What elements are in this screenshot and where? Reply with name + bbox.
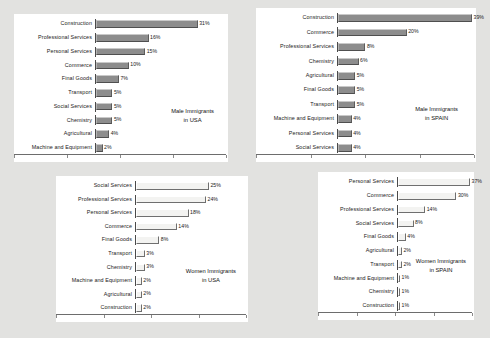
bar-track: 24% — [135, 195, 244, 205]
bar[interactable]: 14% — [398, 206, 425, 214]
bar[interactable]: 25% — [136, 182, 209, 190]
category-label: Personal Services — [14, 49, 95, 54]
bar[interactable]: 5% — [96, 117, 112, 125]
bar-row: Commerce20% — [256, 27, 472, 37]
bar[interactable]: 15% — [96, 48, 145, 56]
bar[interactable]: 31% — [96, 20, 198, 28]
chart-caption-line2: in USA — [186, 276, 236, 284]
bar[interactable]: 18% — [136, 209, 189, 217]
bar[interactable]: 2% — [96, 144, 103, 152]
bar-row: Agricultural2% — [318, 246, 470, 256]
bar-row: Construction2% — [56, 303, 244, 313]
chart-panel-male-usa: Construction31%Professional Services16%P… — [14, 14, 228, 162]
bar[interactable]: 2% — [136, 277, 142, 285]
bar-chart-male-spain: Construction39%Commerce20%Professional S… — [256, 8, 476, 162]
x-axis-tick — [120, 155, 121, 158]
bar-track: 7% — [95, 74, 224, 84]
category-label: Transport — [256, 102, 337, 107]
bar[interactable]: 5% — [338, 101, 355, 109]
bar-value-label: 4% — [353, 116, 361, 121]
bar-rows: Construction39%Commerce20%Professional S… — [256, 13, 472, 153]
category-label: Social Services — [318, 221, 397, 226]
bar[interactable]: 4% — [338, 115, 352, 123]
x-axis — [318, 312, 472, 313]
x-axis-tick — [246, 315, 247, 318]
bar[interactable]: 1% — [398, 288, 400, 296]
bar-value-label: 1% — [402, 303, 410, 308]
bar[interactable]: 2% — [136, 291, 142, 299]
bar-value-label: 2% — [403, 248, 411, 253]
category-label: Machine and Equipment — [256, 116, 337, 121]
bar[interactable]: 4% — [398, 233, 406, 241]
bar-value-label: 39% — [474, 15, 484, 20]
bar-track: 18% — [135, 208, 244, 218]
bar[interactable]: 2% — [136, 304, 142, 312]
x-axis-tick — [173, 155, 174, 158]
bar-row: Commerce14% — [56, 222, 244, 232]
chart-caption-line2: in SPAIN — [415, 114, 458, 122]
bar-track: 5% — [337, 85, 472, 95]
bar-row: Final Goods8% — [56, 235, 244, 245]
x-axis-tick — [226, 155, 227, 158]
bar-rows: Personal Services37%Commerce30%Professio… — [318, 177, 470, 311]
category-label: Social Services — [256, 145, 337, 150]
bar-track: 8% — [397, 218, 470, 228]
bar-row: Agricultural2% — [56, 289, 244, 299]
bar-row: Chemistry6% — [256, 56, 472, 66]
bar[interactable]: 5% — [96, 103, 112, 111]
bar[interactable]: 24% — [136, 196, 206, 204]
bar[interactable]: 5% — [338, 86, 355, 94]
bar-value-label: 5% — [357, 102, 365, 107]
category-label: Construction — [14, 21, 95, 26]
bar[interactable]: 10% — [96, 62, 129, 70]
chart-caption-line2: in USA — [171, 116, 214, 124]
bar[interactable]: 1% — [398, 275, 400, 283]
bar-row: Chemistry1% — [318, 287, 470, 297]
bar[interactable]: 7% — [96, 75, 119, 83]
chart-caption-line2: in SPAIN — [416, 266, 466, 274]
x-axis — [256, 154, 474, 155]
bar-value-label: 20% — [408, 30, 418, 35]
bar[interactable]: 14% — [136, 223, 177, 231]
bar[interactable]: 4% — [338, 130, 352, 138]
bar[interactable]: 1% — [398, 302, 400, 310]
bar-track: 1% — [397, 301, 470, 311]
bar[interactable]: 4% — [96, 130, 109, 138]
bar[interactable]: 8% — [398, 220, 414, 228]
cropped-footnote — [0, 329, 490, 338]
bar-value-label: 2% — [403, 262, 411, 267]
bar-value-label: 14% — [427, 207, 437, 212]
bar[interactable]: 20% — [338, 29, 407, 37]
bar[interactable]: 4% — [338, 144, 352, 152]
bar-row: Construction31% — [14, 19, 224, 29]
x-axis-tick — [420, 155, 421, 158]
category-label: Final Goods — [14, 76, 95, 81]
bar[interactable]: 5% — [338, 72, 355, 80]
bar-value-label: 14% — [178, 224, 188, 229]
x-axis-tick — [365, 155, 366, 158]
bar[interactable]: 5% — [96, 89, 112, 97]
bar[interactable]: 3% — [136, 264, 145, 272]
bar-track: 8% — [337, 42, 472, 52]
bar[interactable]: 39% — [338, 14, 472, 22]
bar-chart-women-usa: Social Services25%Professional Services2… — [56, 176, 248, 322]
bar-value-label: 5% — [114, 90, 122, 95]
bar[interactable]: 2% — [398, 261, 402, 269]
chart-panel-women-usa: Social Services25%Professional Services2… — [56, 176, 248, 322]
bar-value-label: 4% — [111, 132, 119, 137]
bar[interactable]: 2% — [398, 247, 402, 255]
category-label: Transport — [318, 262, 397, 267]
bar[interactable]: 8% — [136, 236, 159, 244]
bar-value-label: 5% — [114, 104, 122, 109]
x-axis-tick — [256, 155, 257, 158]
bar-value-label: 3% — [146, 265, 154, 270]
bar[interactable]: 37% — [398, 178, 470, 186]
bar-value-label: 24% — [208, 197, 218, 202]
bar[interactable]: 16% — [96, 34, 149, 42]
bar[interactable]: 8% — [338, 43, 365, 51]
bar-value-label: 2% — [143, 278, 151, 283]
bar[interactable]: 6% — [338, 58, 359, 66]
bar-rows: Social Services25%Professional Services2… — [56, 181, 244, 313]
bar[interactable]: 30% — [398, 192, 456, 200]
bar[interactable]: 3% — [136, 250, 145, 258]
